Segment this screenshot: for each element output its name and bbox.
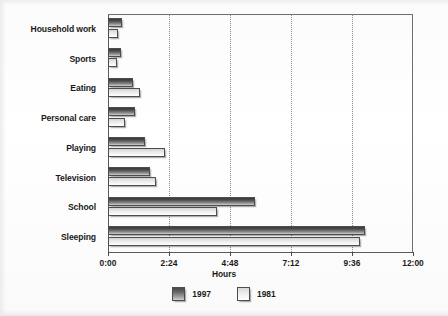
bar-row: Eating <box>0 74 448 104</box>
x-axis-line <box>108 252 414 253</box>
bar-1981[interactable] <box>108 29 118 38</box>
x-tick-label: 9:36 <box>344 258 361 268</box>
category-label: School <box>68 202 96 212</box>
category-label: Playing <box>66 143 96 153</box>
category-label: Sports <box>69 54 96 64</box>
bar-row: Television <box>0 163 448 193</box>
tickmark-2:24 <box>169 252 170 256</box>
bar-chart: Household workSportsEatingPersonal careP… <box>0 0 448 316</box>
category-label: Eating <box>70 83 96 93</box>
legend-swatch-1997-icon <box>172 287 185 301</box>
bar-1997[interactable] <box>108 48 121 57</box>
category-label: Sleeping <box>61 232 96 242</box>
x-tick-label: 7:12 <box>283 258 300 268</box>
category-label: Personal care <box>41 113 96 123</box>
bar-1997[interactable] <box>108 137 145 146</box>
bar-row: Household work <box>0 14 448 44</box>
bar-1997[interactable] <box>108 226 365 235</box>
bar-1981[interactable] <box>108 118 125 127</box>
tickmark-4:48 <box>230 252 231 256</box>
bar-1981[interactable] <box>108 148 165 157</box>
x-axis-title: Hours <box>0 269 448 279</box>
tickmark-0:00 <box>108 252 109 256</box>
bar-1981[interactable] <box>108 58 117 67</box>
x-tick-label: 4:48 <box>222 258 239 268</box>
chart-legend: 1997 1981 <box>0 287 448 301</box>
bar-row: School <box>0 193 448 223</box>
x-tick-label: 0:00 <box>100 258 117 268</box>
tickmark-12:00 <box>413 252 414 256</box>
x-tick-label: 2:24 <box>161 258 178 268</box>
bar-1981[interactable] <box>108 88 140 97</box>
bar-1981[interactable] <box>108 177 156 186</box>
bar-1997[interactable] <box>108 197 255 206</box>
bar-row: Playing <box>0 133 448 163</box>
x-tick-label: 12:00 <box>402 258 423 268</box>
bar-1981[interactable] <box>108 237 360 246</box>
bar-1997[interactable] <box>108 78 133 87</box>
bar-1997[interactable] <box>108 167 150 176</box>
page-edge-shading-top <box>0 0 448 5</box>
tickmark-9:36 <box>352 252 353 256</box>
bar-row: Personal care <box>0 103 448 133</box>
legend-item-1981[interactable]: 1981 <box>237 287 276 301</box>
page-edge-shading-bottom <box>0 310 448 316</box>
bar-row: Sports <box>0 44 448 74</box>
legend-item-1997[interactable]: 1997 <box>172 287 211 301</box>
bar-1981[interactable] <box>108 207 217 216</box>
tickmark-7:12 <box>291 252 292 256</box>
bar-1997[interactable] <box>108 18 122 27</box>
bar-1997[interactable] <box>108 107 135 116</box>
category-label: Television <box>56 173 96 183</box>
bar-row: Sleeping <box>0 222 448 252</box>
legend-label-1981: 1981 <box>257 289 276 299</box>
category-label: Household work <box>31 24 96 34</box>
legend-label-1997: 1997 <box>192 289 211 299</box>
legend-swatch-1981-icon <box>237 287 250 301</box>
